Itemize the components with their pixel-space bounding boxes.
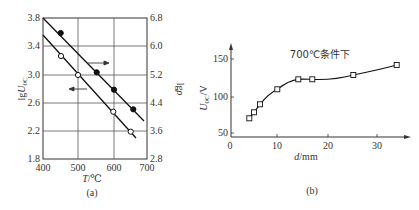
data-point (111, 87, 116, 92)
data-point (111, 109, 116, 114)
figure: 3.8 3.4 3.0 2.6 2.2 1.8 6.8 6.0 5.2 4.4 … (0, 0, 419, 210)
data-point (275, 87, 280, 92)
chart-a: 3.8 3.4 3.0 2.6 2.2 1.8 6.8 6.0 5.2 4.4 … (16, 12, 186, 199)
chart-a-grid (43, 18, 147, 159)
svg-text:500: 500 (71, 162, 86, 173)
svg-text:0: 0 (228, 140, 233, 151)
svg-text:400: 400 (36, 162, 51, 173)
chart-b-x-ticks: 0 10 20 30 (228, 140, 383, 151)
svg-text:2.6: 2.6 (28, 97, 41, 108)
data-point (58, 53, 63, 58)
svg-text:10: 10 (272, 140, 282, 151)
data-point (75, 72, 80, 77)
data-point (258, 102, 263, 107)
svg-text:3.8: 3.8 (28, 12, 41, 23)
data-point (247, 116, 252, 121)
svg-text:3.0: 3.0 (28, 69, 41, 80)
chart-a-series-filled (58, 30, 136, 112)
svg-text:30: 30 (372, 140, 382, 151)
svg-text:3.6: 3.6 (150, 125, 163, 136)
svg-text:4.4: 4.4 (150, 97, 163, 108)
svg-text:20: 20 (323, 140, 333, 151)
svg-text:50: 50 (218, 127, 228, 138)
svg-text:2.2: 2.2 (28, 125, 41, 136)
chart-b-caption: (b) (306, 185, 318, 197)
chart-b-y-axis-arrow-icon (229, 43, 233, 50)
chart-b-x-axis-arrow-icon (404, 135, 411, 139)
svg-text:5.2: 5.2 (150, 69, 163, 80)
chart-a-x-ticks: 400 500 600 700 (36, 162, 155, 173)
data-point (296, 77, 301, 82)
svg-text:6.8: 6.8 (150, 12, 163, 23)
data-point (58, 30, 63, 35)
data-point (128, 129, 133, 134)
svg-text:600: 600 (107, 162, 122, 173)
data-point (131, 107, 136, 112)
chart-b-series (247, 63, 399, 121)
chart-b-title: 700℃条件下 (290, 48, 350, 60)
data-point (94, 70, 99, 75)
svg-text:150: 150 (213, 53, 228, 64)
chart-a-xlabel: T/℃ (82, 173, 102, 184)
chart-a-left-ticks: 3.8 3.4 3.0 2.6 2.2 1.8 (28, 12, 41, 164)
chart-b-ylabel: U0C/V (198, 85, 211, 111)
chart-b-y-ticks: 150 100 50 (213, 53, 228, 138)
svg-text:100: 100 (213, 91, 228, 102)
chart-a-ylabel-right: lgρ (175, 83, 186, 96)
chart-a-fit-line-open (43, 35, 136, 138)
chart-b-curve (249, 65, 396, 118)
chart-a-arrow-right-icon (88, 61, 109, 65)
chart-a-right-ticks: 6.8 6.0 5.2 4.4 3.6 2.8 (150, 12, 163, 164)
svg-text:700: 700 (140, 162, 155, 173)
svg-text:6.0: 6.0 (150, 40, 163, 51)
chart-a-caption: (a) (86, 187, 97, 199)
svg-text:3.4: 3.4 (28, 40, 41, 51)
chart-b-xlabel: d/mm (294, 151, 318, 162)
chart-b: 150 100 50 0 10 20 30 d/mm U0C/V 700℃条件下… (198, 43, 411, 197)
chart-a-frame (43, 18, 147, 159)
data-point (351, 73, 356, 78)
data-point (310, 77, 315, 82)
data-point (252, 110, 257, 115)
data-point (394, 63, 399, 68)
